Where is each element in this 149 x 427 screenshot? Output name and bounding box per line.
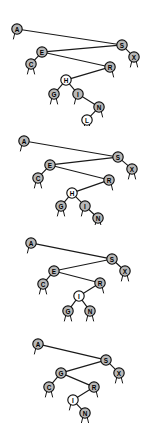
edge-A-S xyxy=(43,345,102,359)
tree-node-G[interactable]: G xyxy=(63,306,73,316)
edge-S-G xyxy=(66,361,102,371)
tree-node-N[interactable]: N xyxy=(80,408,90,418)
node-label-A: A xyxy=(29,240,34,247)
tree-node-N[interactable]: N xyxy=(85,306,95,316)
tree-node-R[interactable]: R xyxy=(105,62,115,72)
node-label-A: A xyxy=(36,341,41,348)
edge-R-H xyxy=(77,182,105,192)
node-label-N: N xyxy=(96,215,101,222)
edge-group xyxy=(22,30,131,117)
tree-node-H[interactable]: H xyxy=(61,75,71,85)
tree-node-H[interactable]: H xyxy=(67,188,77,198)
node-label-A: A xyxy=(22,138,27,145)
node-label-S: S xyxy=(116,154,121,161)
node-label-L: L xyxy=(85,117,89,124)
tree-node-I[interactable]: I xyxy=(80,201,90,211)
tree-node-N[interactable]: N xyxy=(93,213,103,223)
node-label-R: R xyxy=(107,177,112,184)
edge-H-I xyxy=(75,196,81,202)
tree-node-G[interactable]: G xyxy=(56,201,66,211)
node-label-G: G xyxy=(59,370,64,377)
tree-node-I[interactable]: I xyxy=(73,89,83,99)
tree-node-N[interactable]: N xyxy=(94,102,104,112)
tree-node-C[interactable]: C xyxy=(38,279,48,289)
node-label-R: R xyxy=(98,280,103,287)
tree-node-R[interactable]: R xyxy=(89,382,99,392)
node-group: ASXECRHGIN xyxy=(19,136,137,223)
tree-node-E[interactable]: E xyxy=(45,160,55,170)
tree-node-E[interactable]: E xyxy=(49,266,59,276)
tree-node-A[interactable]: A xyxy=(26,238,36,248)
edge-E-R xyxy=(55,166,105,179)
edge-I-N xyxy=(82,97,95,105)
node-group: ASXECRHGINL xyxy=(12,24,139,125)
bst-deletion-figure: ASXECRHGINLASXECRHGINASXECRIGNASXGCRIN xyxy=(0,0,149,427)
edge-S-E xyxy=(55,158,113,165)
node-label-X: X xyxy=(117,370,122,377)
tree-node-L[interactable]: L xyxy=(82,115,92,125)
edge-I-G xyxy=(71,300,76,307)
tree-node-C[interactable]: C xyxy=(33,173,43,183)
edge-I-N xyxy=(89,209,95,214)
tree-node-X[interactable]: X xyxy=(120,266,130,276)
tree-node-G[interactable]: G xyxy=(49,89,59,99)
edge-S-X xyxy=(122,160,129,166)
tree-1-graphic: ASXECRHGINL xyxy=(0,10,149,126)
edge-N-L xyxy=(90,111,95,117)
node-label-E: E xyxy=(48,162,53,169)
edge-H-I xyxy=(69,84,75,91)
edge-H-G xyxy=(64,197,69,203)
tree-node-I[interactable]: I xyxy=(74,291,84,301)
node-label-A: A xyxy=(15,26,20,33)
tree-3-graphic: ASXECRIGN xyxy=(0,234,149,324)
tree-node-R[interactable]: R xyxy=(104,175,114,185)
tree-node-G[interactable]: G xyxy=(56,368,66,378)
tree-node-R[interactable]: R xyxy=(95,278,105,288)
node-label-X: X xyxy=(132,54,137,61)
node-label-C: C xyxy=(29,61,34,68)
edge-R-I xyxy=(77,390,90,398)
tree-2-graphic: ASXECRHGIN xyxy=(0,133,149,225)
tree-node-X[interactable]: X xyxy=(129,52,139,62)
tree-node-A[interactable]: A xyxy=(33,339,43,349)
tree-panel-1: ASXECRHGINL xyxy=(0,10,149,126)
tree-node-X[interactable]: X xyxy=(127,164,137,174)
tree-node-C[interactable]: C xyxy=(26,59,36,69)
tree-node-E[interactable]: E xyxy=(37,47,47,57)
node-label-I: I xyxy=(84,203,86,210)
edge-E-R xyxy=(59,272,96,282)
node-label-G: G xyxy=(52,91,57,98)
edge-S-X xyxy=(116,262,122,267)
node-label-C: C xyxy=(47,384,52,391)
node-label-I: I xyxy=(72,397,74,404)
tree-node-A[interactable]: A xyxy=(12,24,22,34)
tree-node-S[interactable]: S xyxy=(107,254,117,264)
edge-G-R xyxy=(65,375,89,385)
edge-E-C xyxy=(41,169,46,175)
tree-node-A[interactable]: A xyxy=(19,136,29,146)
tree-node-S[interactable]: S xyxy=(113,152,123,162)
node-label-N: N xyxy=(88,308,93,315)
node-label-R: R xyxy=(108,64,113,71)
node-label-S: S xyxy=(110,256,115,263)
tree-node-X[interactable]: X xyxy=(114,368,124,378)
node-label-N: N xyxy=(83,410,88,417)
node-label-C: C xyxy=(41,281,46,288)
tree-node-S[interactable]: S xyxy=(101,355,111,365)
tree-node-C[interactable]: C xyxy=(44,382,54,392)
edge-I-N xyxy=(82,300,87,307)
edge-R-H xyxy=(71,68,106,78)
edge-E-C xyxy=(46,275,51,281)
edge-E-R xyxy=(47,53,106,66)
node-label-S: S xyxy=(120,42,125,49)
node-label-C: C xyxy=(36,175,41,182)
edge-A-S xyxy=(29,142,114,156)
node-label-I: I xyxy=(78,293,80,300)
node-label-E: E xyxy=(40,49,45,56)
tree-node-S[interactable]: S xyxy=(117,40,127,50)
node-label-H: H xyxy=(64,77,69,84)
node-label-S: S xyxy=(104,357,109,364)
node-label-N: N xyxy=(97,104,102,111)
tree-node-I[interactable]: I xyxy=(68,395,78,405)
node-label-E: E xyxy=(52,268,57,275)
